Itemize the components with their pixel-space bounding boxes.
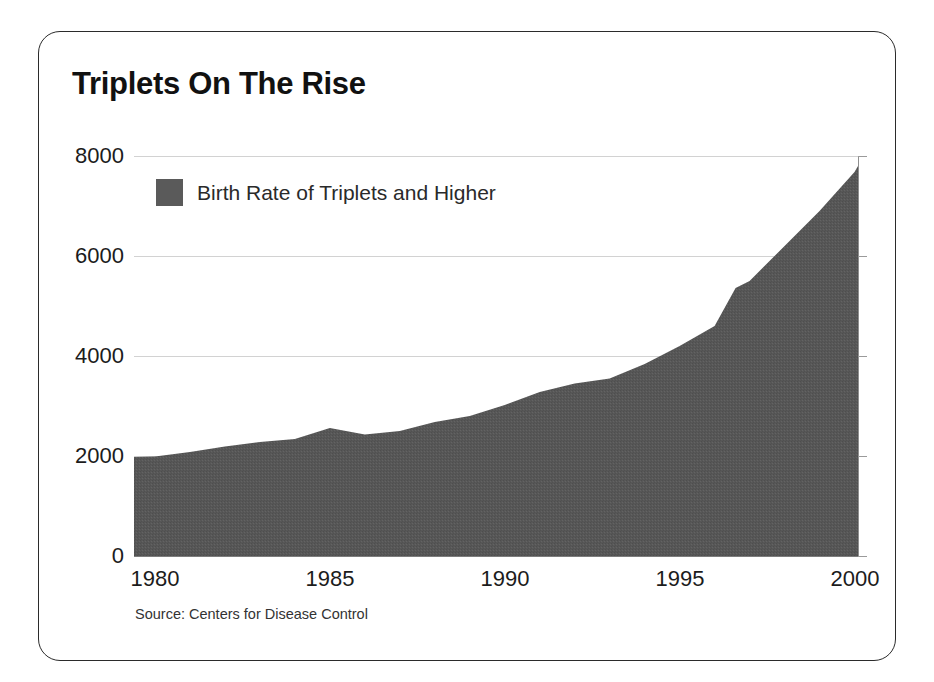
- area-series-triplets: [134, 156, 860, 557]
- y-axis-tick-4000: 4000: [75, 345, 124, 367]
- right-tick-8000: [858, 156, 867, 157]
- right-tick-2000: [858, 456, 867, 457]
- y-axis-labels: 8000 6000 4000 2000 0: [56, 156, 124, 556]
- x-axis-tick-1980: 1980: [131, 566, 180, 592]
- y-axis-tick-0: 0: [112, 545, 124, 567]
- x-axis-tick-1985: 1985: [306, 566, 355, 592]
- chart-card-container: Triplets On The Rise 8000 6000 4000 2000…: [0, 0, 934, 682]
- y-axis-tick-2000: 2000: [75, 445, 124, 467]
- y-axis-tick-8000: 8000: [75, 145, 124, 167]
- page-title: Triplets On The Rise: [72, 66, 366, 102]
- right-tick-6000: [858, 256, 867, 257]
- source-note: Source: Centers for Disease Control: [135, 606, 368, 622]
- x-axis-tick-1990: 1990: [481, 566, 530, 592]
- right-tick-4000: [858, 356, 867, 357]
- x-axis-tick-1995: 1995: [656, 566, 705, 592]
- x-axis-tick-2000: 2000: [831, 566, 880, 592]
- right-tick-0: [858, 556, 867, 557]
- plot-area: [134, 156, 858, 556]
- x-axis-baseline: [134, 556, 860, 557]
- y-axis-tick-6000: 6000: [75, 245, 124, 267]
- legend-label: Birth Rate of Triplets and Higher: [197, 181, 496, 205]
- legend-swatch-icon: [156, 179, 183, 206]
- legend: Birth Rate of Triplets and Higher: [156, 179, 496, 206]
- x-axis-labels: 1980 1985 1990 1995 2000: [134, 566, 874, 600]
